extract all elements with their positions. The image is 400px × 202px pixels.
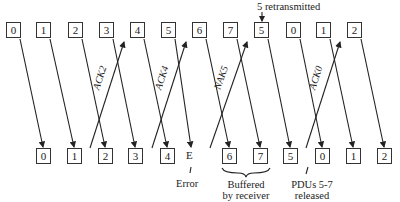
sender-frame-0b: 0	[286, 22, 301, 38]
receiver-frame-4: 4	[160, 148, 175, 164]
receiver-frame-3: 3	[128, 148, 143, 164]
receiver-frame-5: 5	[283, 148, 298, 164]
receiver-frame-7: 7	[253, 148, 268, 164]
sender-frame-3: 3	[99, 22, 114, 38]
sender-frame-1: 1	[36, 22, 51, 38]
error-annotation: Error	[176, 178, 198, 190]
selective-repeat-diagram: 0 1 2 3 4 5 6 7 5 0 1 2 0 1 2 3 4 E 6 7 …	[0, 0, 400, 202]
receiver-frame-0b: 0	[315, 148, 330, 164]
sender-frame-6: 6	[192, 22, 207, 38]
buffered-annotation-line2: by receiver	[214, 190, 278, 202]
sender-frame-1b: 1	[316, 22, 331, 38]
sender-frame-5-retransmit: 5	[254, 22, 269, 38]
released-annotation-line2: released	[288, 190, 336, 202]
receiver-frame-1: 1	[67, 148, 82, 164]
sender-frame-0: 0	[6, 22, 21, 38]
retransmitted-annotation: 5 retransmitted	[257, 1, 320, 13]
receiver-frame-1b: 1	[346, 148, 361, 164]
receiver-error-marker: E	[186, 149, 193, 161]
sender-frame-5: 5	[161, 22, 176, 38]
receiver-frame-6: 6	[222, 148, 237, 164]
receiver-frame-0: 0	[36, 148, 51, 164]
receiver-frame-2: 2	[98, 148, 113, 164]
sender-frame-7: 7	[223, 22, 238, 38]
sender-frame-4: 4	[130, 22, 145, 38]
receiver-frame-2b: 2	[377, 148, 392, 164]
sender-frame-2: 2	[68, 22, 83, 38]
sender-frame-2b: 2	[347, 22, 362, 38]
